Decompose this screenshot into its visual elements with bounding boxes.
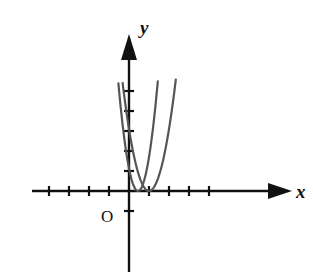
graph-canvas: y x O: [0, 0, 313, 274]
x-axis-arrow-icon: [268, 183, 292, 199]
y-axis-arrow-icon: [121, 34, 137, 60]
y-axis-label: y: [138, 17, 149, 38]
parabola-figure: y x O: [0, 0, 313, 274]
origin-label: O: [101, 207, 113, 226]
x-axis-label: x: [295, 181, 306, 202]
